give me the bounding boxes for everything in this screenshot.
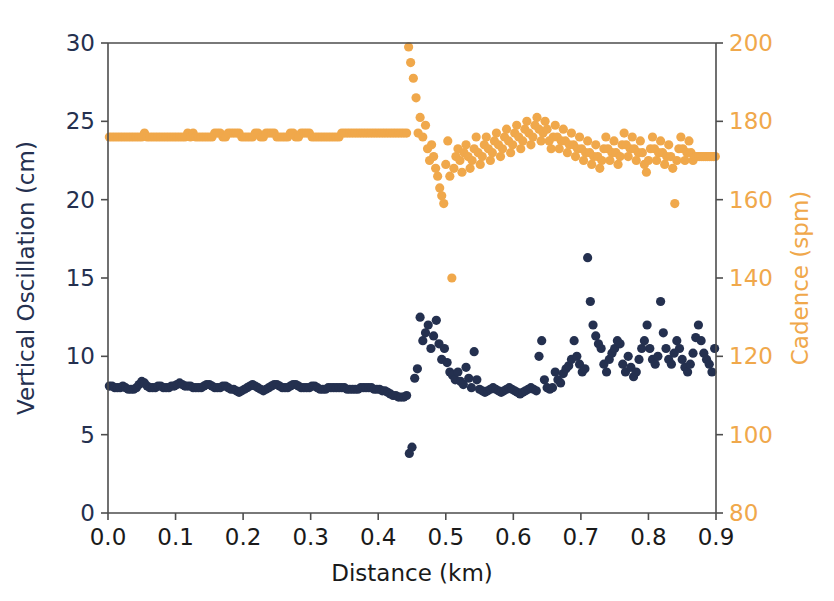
data-point <box>432 316 441 325</box>
data-point <box>588 320 597 329</box>
data-point <box>686 360 695 369</box>
data-point <box>580 364 589 373</box>
data-point <box>661 344 670 353</box>
data-point <box>528 132 537 141</box>
data-point <box>409 74 418 83</box>
data-point <box>644 156 653 165</box>
data-point <box>453 367 462 376</box>
data-point <box>672 336 681 345</box>
data-point <box>426 344 435 353</box>
data-point <box>522 117 531 126</box>
scatter-chart-canvas: 051015202530801001201401601802000.00.10.… <box>0 0 834 601</box>
data-point <box>640 336 649 345</box>
y-ticklabel-left: 15 <box>66 265 95 291</box>
x-ticklabel: 0.5 <box>427 524 464 550</box>
data-point <box>470 347 479 356</box>
data-point <box>668 164 677 173</box>
data-point <box>624 152 633 161</box>
data-point <box>421 121 430 130</box>
data-point <box>416 313 425 322</box>
data-point <box>532 386 541 395</box>
data-point <box>512 121 521 130</box>
data-point <box>449 164 458 173</box>
data-point <box>431 164 440 173</box>
data-point <box>457 168 466 177</box>
y-ticklabel-left: 30 <box>66 30 95 56</box>
x-ticklabel: 0.3 <box>292 524 329 550</box>
data-point <box>656 136 665 145</box>
data-point <box>424 320 433 329</box>
data-point <box>466 164 475 173</box>
data-point <box>464 374 473 383</box>
data-point <box>468 156 477 165</box>
data-point <box>670 199 679 208</box>
data-point <box>638 148 647 157</box>
data-point <box>597 156 606 165</box>
data-point <box>534 352 543 361</box>
data-point <box>543 125 552 134</box>
data-point <box>488 148 497 157</box>
y-axis-label-right: Cadence (spm) <box>787 191 813 366</box>
data-point <box>628 132 637 141</box>
data-point <box>551 121 560 130</box>
data-point <box>710 344 719 353</box>
x-ticklabel: 0.1 <box>157 524 194 550</box>
data-point <box>410 374 419 383</box>
data-point <box>642 168 651 177</box>
data-point <box>705 360 714 369</box>
data-point <box>567 128 576 137</box>
data-point <box>472 132 481 141</box>
x-ticklabel: 0.6 <box>495 524 532 550</box>
data-point <box>427 140 436 149</box>
data-point <box>547 144 556 153</box>
data-point <box>597 344 606 353</box>
data-point <box>406 58 415 67</box>
data-point <box>634 355 643 364</box>
y-ticklabel-right: 140 <box>729 265 773 291</box>
data-point <box>418 132 427 141</box>
y-ticklabel-left: 25 <box>66 108 95 134</box>
data-point <box>478 152 487 161</box>
data-point <box>586 297 595 306</box>
data-point <box>602 367 611 376</box>
data-point <box>570 336 579 345</box>
data-point <box>615 339 624 348</box>
data-point <box>620 128 629 137</box>
data-point <box>455 156 464 165</box>
data-point <box>694 320 703 329</box>
data-point <box>502 125 511 134</box>
data-point <box>579 156 588 165</box>
y-ticklabel-right: 200 <box>729 30 773 56</box>
data-point <box>537 336 546 345</box>
data-point <box>447 273 456 282</box>
data-point <box>667 360 676 369</box>
x-ticklabel: 0.9 <box>698 524 735 550</box>
data-point <box>440 344 449 353</box>
data-point <box>482 132 491 141</box>
data-point <box>540 375 549 384</box>
data-point <box>443 358 452 367</box>
data-series-layer <box>105 42 720 458</box>
data-point <box>613 160 622 169</box>
data-point <box>506 148 515 157</box>
y-ticklabel-left: 5 <box>80 422 95 448</box>
data-point <box>656 297 665 306</box>
data-point <box>496 152 505 161</box>
data-point <box>445 172 454 181</box>
data-point <box>486 156 495 165</box>
data-point <box>492 128 501 137</box>
data-point <box>407 443 416 452</box>
data-point <box>652 156 661 165</box>
data-point <box>540 117 549 126</box>
data-point <box>516 144 525 153</box>
data-point <box>526 140 535 149</box>
x-axis-label: Distance (km) <box>331 560 493 586</box>
data-point <box>416 113 425 122</box>
y-ticklabel-left: 0 <box>80 500 95 526</box>
data-point <box>472 375 481 384</box>
y-ticklabel-right: 100 <box>729 422 773 448</box>
data-point <box>637 344 646 353</box>
data-point <box>413 364 422 373</box>
x-ticklabel: 0.0 <box>90 524 127 550</box>
data-point <box>572 352 581 361</box>
